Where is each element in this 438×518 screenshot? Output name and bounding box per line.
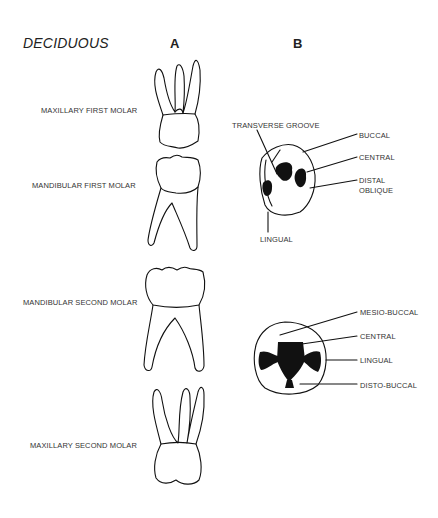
mandibular-first-molar-illustration [148,155,200,250]
maxillary-second-molar-illustration [153,387,204,484]
tooth-illustrations [0,0,438,518]
maxillary-first-molar-illustration [155,60,201,148]
mandibular-first-molar-occlusal [257,130,357,232]
mandibular-second-molar-illustration [144,267,205,371]
